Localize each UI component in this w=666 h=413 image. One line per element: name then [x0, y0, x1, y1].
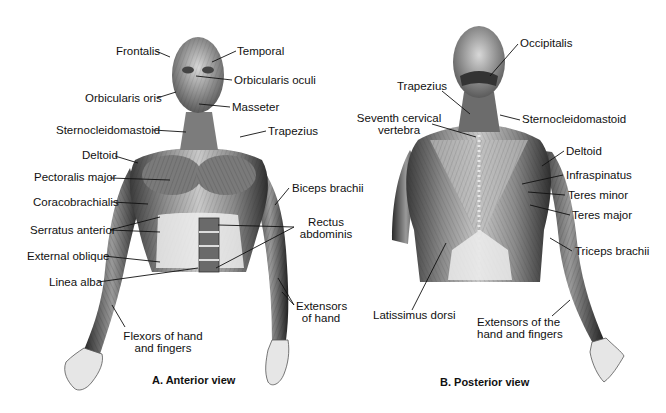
label-trapezius-anterior: Trapezius: [268, 125, 318, 137]
label-biceps-brachii: Biceps brachii: [292, 182, 364, 194]
muscle-diagram: Frontalis Temporal Orbicularis oculi Orb…: [0, 0, 666, 413]
anterior-left-hand: [65, 348, 103, 390]
label-extensors-of-hand-line1: Extensors: [296, 300, 347, 312]
label-teres-minor: Teres minor: [568, 189, 628, 201]
label-flexors-line1: Flexors of hand: [123, 330, 202, 342]
label-external-oblique: External oblique: [27, 250, 109, 262]
label-extensors-posterior-line1: Extensors of the: [477, 316, 560, 328]
label-teres-major: Teres major: [572, 209, 632, 221]
label-sternocleidomastoid-posterior: Sternocleidomastoid: [522, 113, 626, 125]
label-sternocleidomastoid-anterior: Sternocleidomastoid: [56, 124, 160, 136]
posterior-right-hand: [590, 338, 624, 382]
label-latissimus-dorsi: Latissimus dorsi: [373, 309, 455, 321]
label-deltoid-anterior: Deltoid: [82, 149, 118, 161]
label-extensors-of-hand: Extensors of hand: [296, 300, 346, 324]
label-serratus-anterior: Serratus anterior: [30, 224, 116, 236]
label-seventh-cervical-line2: vertebra: [378, 124, 420, 136]
label-rectus-abdominis: Rectus abdominis: [296, 216, 356, 240]
label-extensors-posterior-line2: hand and fingers: [477, 328, 563, 340]
anterior-neck: [180, 112, 218, 150]
caption-anterior-view: A. Anterior view: [152, 374, 235, 386]
posterior-head: [453, 26, 505, 98]
label-flexors-line2: and fingers: [135, 342, 192, 354]
label-trapezius-posterior: Trapezius: [397, 80, 447, 92]
label-extensors-hand-fingers: Extensors of the hand and fingers: [477, 316, 563, 340]
label-frontalis: Frontalis: [116, 45, 160, 57]
label-temporal: Temporal: [237, 45, 284, 57]
label-masseter: Masseter: [232, 101, 279, 113]
label-deltoid-posterior: Deltoid: [566, 145, 602, 157]
label-infraspinatus: Infraspinatus: [566, 169, 632, 181]
label-pectoralis-major: Pectoralis major: [34, 171, 116, 183]
anterior-right-hand: [266, 340, 289, 385]
caption-posterior-view: B. Posterior view: [440, 376, 529, 388]
label-orbicularis-oculi: Orbicularis oculi: [234, 74, 316, 86]
label-occipitalis: Occipitalis: [520, 37, 572, 49]
label-extensors-of-hand-line2: of hand: [302, 312, 340, 324]
label-linea-alba: Linea alba: [49, 276, 102, 288]
label-rectus-abdominis-line2: abdominis: [300, 228, 352, 240]
label-coracobrachialis: Coracobrachialis: [33, 196, 119, 208]
label-seventh-cervical-vertebra: Seventh cervical vertebra: [352, 112, 446, 136]
label-rectus-abdominis-line1: Rectus: [308, 216, 344, 228]
label-triceps-brachii: Triceps brachii: [575, 245, 649, 257]
label-orbicularis-oris: Orbicularis oris: [85, 92, 162, 104]
label-flexors-of-hand: Flexors of hand and fingers: [120, 330, 206, 354]
label-seventh-cervical-line1: Seventh cervical: [357, 112, 441, 124]
